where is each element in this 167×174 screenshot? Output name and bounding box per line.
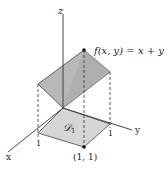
- diagram-canvas: z y x 1 1 f(x, y) = x + y 𝒟1 (1, 1): [0, 0, 167, 174]
- y-tick-label: 1: [108, 129, 113, 138]
- point-label: (1, 1): [73, 152, 97, 162]
- z-axis-label: z: [57, 5, 64, 16]
- x-axis-label: x: [6, 152, 11, 162]
- x-tick-label: 1: [36, 139, 41, 148]
- surface-point: [82, 48, 86, 52]
- domain-point: [82, 145, 86, 149]
- y-axis-label: y: [134, 125, 141, 135]
- function-label: f(x, y) = x + y: [93, 45, 164, 56]
